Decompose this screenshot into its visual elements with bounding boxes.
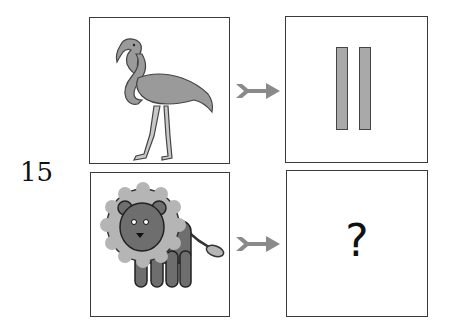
lion-icon bbox=[91, 173, 228, 315]
puzzle-number: 15 bbox=[20, 157, 53, 187]
bar-1 bbox=[336, 47, 348, 130]
flamingo-card bbox=[89, 17, 230, 164]
lion-card bbox=[90, 172, 230, 317]
right-arrow-icon bbox=[234, 81, 282, 101]
question-mark: ? bbox=[287, 215, 427, 266]
answer-card[interactable]: ? bbox=[286, 170, 428, 317]
right-arrow-icon bbox=[234, 234, 282, 254]
bar-2 bbox=[359, 47, 371, 130]
flamingo-icon bbox=[90, 18, 228, 162]
result-card-bars bbox=[285, 16, 428, 163]
